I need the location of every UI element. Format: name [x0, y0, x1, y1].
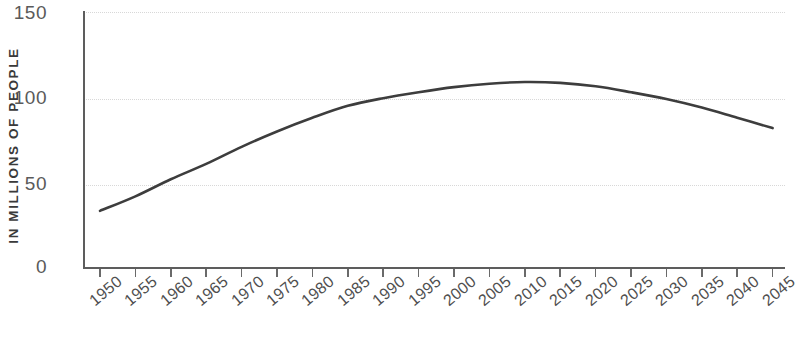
x-axis-tick-label-1985: 1985 — [334, 272, 374, 309]
y-axis-line — [83, 11, 85, 269]
x-axis-tick-1950 — [99, 269, 101, 277]
gridline-100 — [83, 99, 785, 101]
x-axis-tick-label-2020: 2020 — [582, 272, 622, 309]
x-axis-tick-label-2015: 2015 — [546, 272, 586, 309]
x-axis-tick-label-1965: 1965 — [192, 272, 232, 309]
plot-area — [83, 12, 785, 269]
x-axis-tick-label-2035: 2035 — [688, 272, 728, 309]
x-axis-tick-2000 — [453, 269, 455, 277]
x-axis-tick-1985 — [347, 269, 349, 277]
x-axis-tick-label-1970: 1970 — [228, 272, 268, 309]
x-axis-tick-1990 — [382, 269, 384, 277]
x-axis-tick-1955 — [135, 269, 137, 277]
x-axis-tick-label-1975: 1975 — [263, 272, 303, 309]
x-axis-tick-label-1980: 1980 — [298, 272, 338, 309]
x-axis-tick-2045 — [772, 269, 774, 277]
x-axis-tick-2035 — [701, 269, 703, 277]
x-axis-tick-1980 — [312, 269, 314, 277]
x-axis-tick-label-1960: 1960 — [157, 272, 197, 309]
x-axis-tick-label-2000: 2000 — [440, 272, 480, 309]
x-axis-tick-label-1955: 1955 — [121, 272, 161, 309]
x-axis-line — [83, 267, 785, 269]
y-axis-title: IN MILLIONS OF PEOPLE — [0, 0, 26, 290]
y-axis-title-text: IN MILLIONS OF PEOPLE — [6, 47, 21, 243]
x-axis-tick-label-2045: 2045 — [759, 272, 798, 309]
x-axis-tick-2015 — [559, 269, 561, 277]
x-axis-tick-label-1950: 1950 — [86, 272, 126, 309]
gridline-150 — [83, 12, 785, 14]
x-axis-tick-1975 — [276, 269, 278, 277]
x-axis-tick-label-2005: 2005 — [475, 272, 515, 309]
x-axis-tick-label-1995: 1995 — [405, 272, 445, 309]
y-axis-tick-label-50: 50 — [1, 173, 47, 195]
x-axis-tick-label-1990: 1990 — [369, 272, 409, 309]
y-axis-tick-label-150: 150 — [1, 2, 47, 24]
x-axis-tick-label-2040: 2040 — [723, 272, 763, 309]
gridline-50 — [83, 185, 785, 187]
x-axis-tick-1995 — [418, 269, 420, 277]
x-axis-tick-2010 — [524, 269, 526, 277]
x-axis-tick-1960 — [170, 269, 172, 277]
x-axis-tick-2020 — [595, 269, 597, 277]
x-axis-tick-label-2010: 2010 — [511, 272, 551, 309]
x-axis-tick-2005 — [489, 269, 491, 277]
y-axis-tick-label-0: 0 — [1, 256, 47, 278]
x-axis-tick-2030 — [666, 269, 668, 277]
x-axis-tick-label-2030: 2030 — [652, 272, 692, 309]
x-axis-tick-2025 — [630, 269, 632, 277]
x-axis-tick-label-2025: 2025 — [617, 272, 657, 309]
y-axis-tick-label-100: 100 — [1, 87, 47, 109]
x-axis-tick-1970 — [241, 269, 243, 277]
x-axis-tick-2040 — [736, 269, 738, 277]
x-axis-tick-1965 — [205, 269, 207, 277]
